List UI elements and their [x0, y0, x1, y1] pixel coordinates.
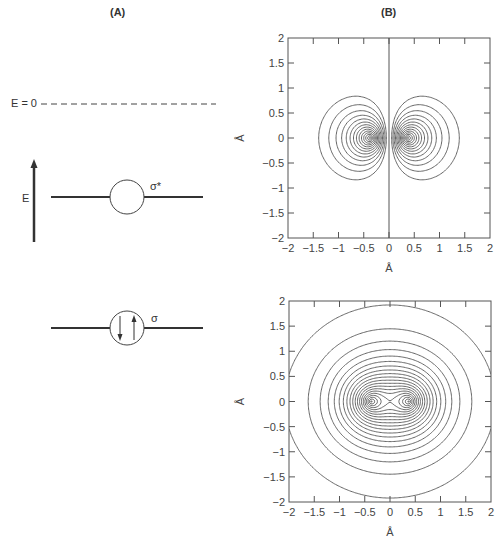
x-tick-label: 1	[437, 506, 443, 518]
y-tick-label: 2	[278, 32, 284, 44]
y-tick-label: 1	[279, 345, 285, 357]
y-tick-label: 0.5	[269, 107, 284, 119]
x-tick-label: −1.5	[303, 506, 325, 518]
plot-frame	[289, 301, 491, 502]
x-tick-label: −0.5	[354, 506, 376, 518]
x-tick-label: −1.5	[302, 242, 324, 254]
y-tick-label: −0.5	[263, 421, 285, 433]
y-tick-label: 1	[278, 82, 284, 94]
x-tick-label: 1	[436, 242, 442, 254]
contour-plot-2: −2−1.5−1−0.500.511.5221.510.50−0.5−1−1.5…	[234, 295, 494, 538]
y-tick-label: −2	[272, 496, 285, 508]
y-axis-label: Å	[234, 397, 246, 405]
x-tick-label: 2	[487, 242, 493, 254]
contour-plots: −2−1.5−1−0.500.511.5221.510.50−0.5−1−1.5…	[0, 0, 503, 546]
y-axis-label: Å	[234, 134, 246, 142]
x-tick-label: 0	[387, 506, 393, 518]
y-tick-label: 1.5	[270, 320, 285, 332]
y-tick-label: −1	[272, 446, 285, 458]
x-tick-label: −1	[333, 506, 346, 518]
y-tick-label: 0.5	[270, 370, 285, 382]
x-axis-label: Å	[386, 526, 394, 538]
x-tick-label: 0.5	[408, 506, 423, 518]
y-tick-label: −1.5	[262, 207, 284, 219]
y-tick-label: −2	[271, 232, 284, 244]
x-tick-label: 1.5	[458, 506, 473, 518]
y-tick-label: −0.5	[262, 157, 284, 169]
x-tick-label: 1.5	[457, 242, 472, 254]
y-tick-label: 0	[278, 132, 284, 144]
x-axis-label: Å	[385, 262, 393, 274]
x-tick-label: 2	[488, 506, 494, 518]
y-tick-label: −1	[271, 182, 284, 194]
y-tick-label: 0	[279, 396, 285, 408]
y-tick-label: 2	[279, 295, 285, 307]
x-tick-label: 0.5	[407, 242, 422, 254]
x-tick-label: −0.5	[353, 242, 375, 254]
contour-lines	[289, 305, 491, 498]
y-tick-label: 1.5	[269, 57, 284, 69]
contour-plot-1: −2−1.5−1−0.500.511.5221.510.50−0.5−1−1.5…	[234, 32, 493, 274]
x-tick-label: −1	[332, 242, 345, 254]
x-tick-label: 0	[386, 242, 392, 254]
y-tick-label: −1.5	[263, 471, 285, 483]
